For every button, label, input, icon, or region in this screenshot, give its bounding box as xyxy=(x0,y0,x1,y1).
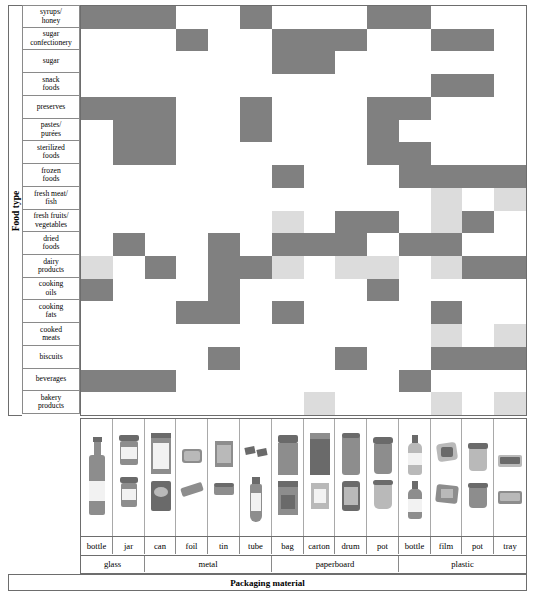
column-item-label: tin xyxy=(219,541,228,551)
carton-icon xyxy=(304,419,334,536)
drum-icon xyxy=(335,419,366,536)
glass-bottle-photo xyxy=(81,419,113,536)
column-item-11: film xyxy=(431,537,462,554)
matrix-cell-r10-c4 xyxy=(208,233,240,256)
pkg-shape xyxy=(500,457,520,464)
matrix-cell-r0-c5 xyxy=(240,6,272,29)
material-group-label: plastic xyxy=(451,559,473,569)
matrix-cell-r11-c9 xyxy=(367,256,399,279)
pkg-shape xyxy=(89,481,105,501)
column-item-2: can xyxy=(145,537,176,554)
row-label-17: bakery products xyxy=(22,391,80,414)
matrix-cell-r16-c0 xyxy=(81,370,113,392)
pkg-shape xyxy=(93,437,102,442)
column-item-6: bag xyxy=(272,537,304,554)
row-label-text: biscuits xyxy=(39,353,62,362)
matrix-cell-r14-c11 xyxy=(431,324,462,347)
row-label-text: fresh meat/ fish xyxy=(34,190,68,207)
column-item-label: carton xyxy=(308,541,329,551)
matrix-cell-r11-c6 xyxy=(272,256,304,279)
material-group-metal: metal xyxy=(145,556,272,572)
ppot-icon xyxy=(462,419,493,536)
material-group-label: paperboard xyxy=(316,559,355,569)
row-label-10: dried foods xyxy=(22,232,80,255)
pkg-shape xyxy=(374,483,392,509)
matrix-cell-r16-c1 xyxy=(113,370,145,392)
paperboard-pot-photo xyxy=(367,419,399,536)
matrix-cell-r14-c13 xyxy=(494,324,526,347)
pkg-shape xyxy=(342,435,360,475)
row-label-14: cooked meats xyxy=(22,323,80,346)
plastic-film-photo xyxy=(431,419,462,536)
matrix-cell-r13-c3 xyxy=(176,301,208,324)
row-label-9: fresh fruits/ vegetables xyxy=(22,210,80,232)
column-item-0: bottle xyxy=(81,537,113,554)
matrix-cell-r0-c9 xyxy=(367,6,399,29)
matrix-cell-r6-c1 xyxy=(113,142,145,165)
metal-tin-photo xyxy=(208,419,240,536)
paperboard-drum-photo xyxy=(335,419,367,536)
glass-jar-photo xyxy=(113,419,145,536)
pbottle-icon xyxy=(399,419,430,536)
matrix-cell-r11-c4 xyxy=(208,256,240,279)
metal-can-photo xyxy=(145,419,176,536)
row-label-text: cooking fats xyxy=(39,303,63,320)
row-label-text: dried foods xyxy=(43,235,60,252)
matrix-cell-r11-c11 xyxy=(431,256,462,279)
matrix-cell-r2-c7 xyxy=(304,51,335,74)
row-label-column: syrups/ honeysugar confectionerysugarsna… xyxy=(22,5,80,416)
matrix-cell-r17-c11 xyxy=(431,392,462,415)
matrix-cell-r5-c2 xyxy=(145,120,176,142)
matrix-cell-r5-c1 xyxy=(113,120,145,142)
matrix-cell-r13-c4 xyxy=(208,301,240,324)
matrix-cell-r4-c1 xyxy=(113,97,145,120)
pkg-shape xyxy=(412,435,418,443)
matrix-cell-r11-c8 xyxy=(335,256,367,279)
pot-icon xyxy=(367,419,398,536)
foil-icon xyxy=(176,419,207,536)
column-item-label: can xyxy=(154,541,166,551)
matrix-cell-r15-c13 xyxy=(494,347,526,370)
matrix-cell-r1-c11 xyxy=(431,29,462,51)
matrix-cell-r1-c7 xyxy=(304,29,335,51)
row-label-text: preserves xyxy=(37,103,66,112)
column-item-label: foil xyxy=(186,541,198,551)
row-label-text: beverages xyxy=(36,375,66,384)
column-item-label: drum xyxy=(341,541,359,551)
pkg-shape xyxy=(281,495,295,509)
matrix-cell-r7-c13 xyxy=(494,165,526,188)
matrix-cell-r7-c6 xyxy=(272,165,304,188)
matrix-cell-r3-c12 xyxy=(462,74,494,97)
x-axis-title-text: Packaging material xyxy=(230,578,305,588)
matrix-cell-r15-c8 xyxy=(335,347,367,370)
row-label-text: snack foods xyxy=(42,76,59,93)
pkg-shape xyxy=(154,487,168,497)
column-item-12: pot xyxy=(462,537,494,554)
metal-foil-photo xyxy=(176,419,208,536)
row-label-0: syrups/ honey xyxy=(22,5,80,28)
film-icon xyxy=(431,419,461,536)
matrix-cell-r17-c13 xyxy=(494,392,526,415)
column-item-8: drum xyxy=(335,537,367,554)
pkg-shape xyxy=(278,443,298,475)
pkg-shape xyxy=(412,481,418,489)
y-axis-title-text: Food type xyxy=(11,190,21,230)
matrix-cell-r5-c9 xyxy=(367,120,399,142)
metal-tube-photo xyxy=(240,419,272,536)
matrix-cell-r6-c2 xyxy=(145,142,176,165)
pkg-shape xyxy=(122,489,136,500)
plastic-tray-photo xyxy=(494,419,526,536)
pkg-shape xyxy=(469,488,487,508)
matrix-cell-r7-c10 xyxy=(399,165,431,188)
matrix-cell-r12-c4 xyxy=(208,279,240,301)
matrix-cell-r1-c6 xyxy=(272,29,304,51)
row-label-8: fresh meat/ fish xyxy=(22,187,80,210)
matrix-cell-r10-c10 xyxy=(399,233,431,256)
material-group-plastic: plastic xyxy=(399,556,526,572)
matrix-cell-r9-c9 xyxy=(367,211,399,233)
row-label-15: biscuits xyxy=(22,346,80,369)
material-group-label: metal xyxy=(198,559,217,569)
matrix-cell-r15-c11 xyxy=(431,347,462,370)
matrix-cell-r4-c2 xyxy=(145,97,176,120)
matrix-cell-r1-c8 xyxy=(335,29,367,51)
